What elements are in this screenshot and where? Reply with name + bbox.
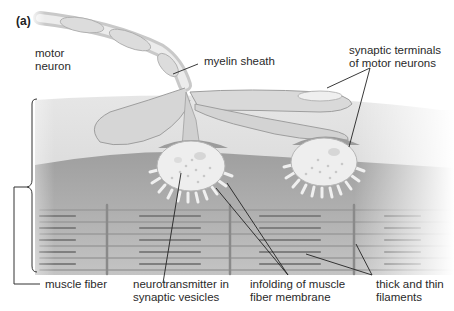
label-synaptic-terminals: synaptic terminals of motor neurons: [349, 44, 441, 69]
label-infolding: infolding of muscle fiber membrane: [250, 278, 345, 303]
label-neurotransmitter: neurotransmitter in synaptic vesicles: [133, 278, 229, 303]
panel-label: (a): [16, 14, 31, 28]
label-muscle-fiber: muscle fiber: [45, 278, 107, 291]
terminal-leader-1: [327, 68, 370, 88]
label-filaments: thick and thin filaments: [376, 278, 444, 303]
label-myelin-sheath: myelin sheath: [204, 55, 275, 68]
label-motor-neuron: motor neuron: [35, 47, 71, 72]
